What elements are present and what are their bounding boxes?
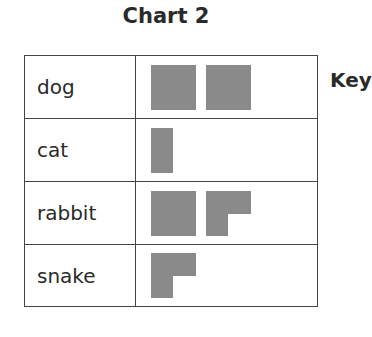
row-icons	[136, 182, 317, 244]
row-icons	[136, 119, 317, 181]
row-label: snake	[25, 245, 136, 306]
full-square-icon	[151, 191, 196, 236]
half-square-icon	[151, 128, 173, 173]
full-square-icon	[206, 65, 251, 110]
table-row-snake: snake	[25, 245, 317, 306]
row-label: rabbit	[25, 182, 136, 244]
table-row-dog: dog	[25, 56, 317, 119]
row-label: cat	[25, 119, 136, 181]
three-quarter-square-icon	[206, 191, 251, 236]
chart-title: Chart 2	[0, 4, 332, 28]
table-row-rabbit: rabbit	[25, 182, 317, 245]
row-icons	[136, 245, 317, 306]
key-label: Key	[330, 68, 372, 92]
full-square-icon	[151, 65, 196, 110]
row-icons	[136, 56, 317, 118]
three-quarter-square-icon	[151, 253, 196, 298]
pictogram-table: dog cat rabbit snake	[24, 55, 318, 307]
table-row-cat: cat	[25, 119, 317, 182]
row-label: dog	[25, 56, 136, 118]
